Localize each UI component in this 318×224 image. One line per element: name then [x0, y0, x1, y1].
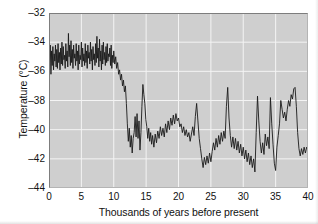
temperature-series-plot: [49, 13, 308, 188]
grid-lines: [49, 13, 308, 188]
x-tick-label: 40: [293, 192, 318, 202]
x-tick-label: 35: [261, 192, 291, 202]
x-axis-title: Thousands of years before present: [49, 206, 308, 218]
page-edge-shadow-right: [315, 0, 318, 224]
y-axis-tick-labels: –32–34–36–38–40–42–44: [0, 0, 45, 224]
page-edge-shadow-bottom: [0, 221, 318, 224]
y-tick-label: –42: [1, 154, 45, 164]
x-tick-label: 20: [164, 192, 194, 202]
plot-area: [49, 13, 308, 188]
x-tick-label: 15: [131, 192, 161, 202]
y-tick-label: –40: [1, 125, 45, 135]
x-tick-label: 30: [228, 192, 258, 202]
y-tick-label: –38: [1, 96, 45, 106]
x-tick-label: 10: [99, 192, 129, 202]
chart-figure: Temperature (°C) –32–34–36–38–40–42–44 0…: [0, 0, 318, 224]
y-tick-label: –36: [1, 66, 45, 76]
x-tick-label: 5: [66, 192, 96, 202]
x-axis-tick-labels: 0510152025303540: [49, 192, 308, 206]
y-tick-label: –34: [1, 37, 45, 47]
x-tick-label: 25: [196, 192, 226, 202]
y-tick-label: –32: [1, 8, 45, 18]
x-tick-label: 0: [34, 192, 64, 202]
